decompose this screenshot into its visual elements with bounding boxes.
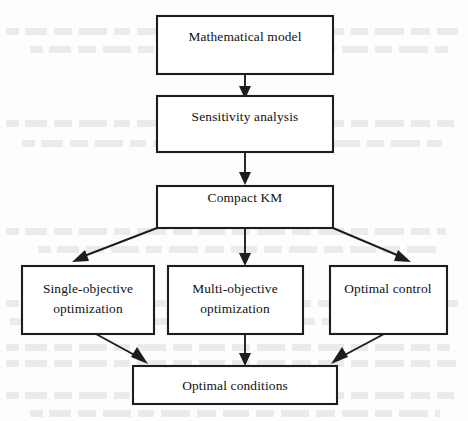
edge-compact-km-to-optimal-control xyxy=(333,228,411,262)
node-label-compact-km: Compact KM xyxy=(208,190,283,205)
edge-sensitivity-to-compact-km xyxy=(239,152,251,185)
flowchart-page: Mathematical model Sensitivity analysis … xyxy=(0,0,468,421)
node-label-multi-objective-line2: optimization xyxy=(200,301,270,316)
node-label-single-objective-line2: optimization xyxy=(53,301,123,316)
node-mathematical-model[interactable]: Mathematical model xyxy=(157,16,333,74)
node-single-objective-optimization[interactable]: Single-objective optimization xyxy=(22,266,154,334)
node-optimal-conditions[interactable]: Optimal conditions xyxy=(133,366,337,404)
node-label-sensitivity-analysis: Sensitivity analysis xyxy=(192,109,299,124)
node-label-single-objective-line1: Single-objective xyxy=(43,281,133,296)
edge-compact-km-to-multi-objective xyxy=(239,228,251,266)
flowchart-canvas: Mathematical model Sensitivity analysis … xyxy=(0,0,468,421)
node-sensitivity-analysis[interactable]: Sensitivity analysis xyxy=(157,96,333,152)
edge-optimal-control-to-optimal-conditions xyxy=(331,334,384,364)
node-optimal-control[interactable]: Optimal control xyxy=(330,266,447,334)
node-compact-km[interactable]: Compact KM xyxy=(157,186,333,228)
node-label-mathematical-model: Mathematical model xyxy=(188,29,301,44)
node-multi-objective-optimization[interactable]: Multi-objective optimization xyxy=(168,266,303,334)
edge-single-objective-to-optimal-conditions xyxy=(96,334,148,364)
node-label-optimal-control: Optimal control xyxy=(344,281,432,296)
edge-compact-km-to-single-objective xyxy=(72,228,157,262)
edge-multi-objective-to-optimal-conditions xyxy=(239,334,251,366)
node-label-multi-objective-line1: Multi-objective xyxy=(192,281,278,296)
node-label-optimal-conditions: Optimal conditions xyxy=(182,378,288,393)
